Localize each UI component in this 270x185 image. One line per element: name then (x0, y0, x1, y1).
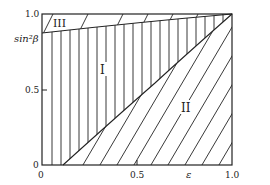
y-tick-label-05: 0.5 (25, 85, 40, 95)
x-tick-label-1: 1.0 (225, 170, 240, 180)
x-tick-label-05: 0.5 (130, 170, 145, 180)
region-ii-label: II (181, 101, 191, 115)
plot-frame (42, 14, 232, 165)
phase-diagram: 1.0 0.5 0 sin²β 0 0.5 1.0 ε III I II (0, 0, 270, 185)
y-axis-label: sin²β (14, 33, 39, 44)
region-i-label: I (100, 63, 105, 77)
region-i-hatch (52, 10, 223, 170)
y-tick-label-1: 1.0 (25, 9, 40, 19)
x-tick-label-0: 0 (38, 170, 44, 180)
x-axis-label: ε (186, 169, 191, 180)
region-iii-label: III (53, 17, 66, 30)
y-tick-label-0: 0 (33, 160, 39, 170)
